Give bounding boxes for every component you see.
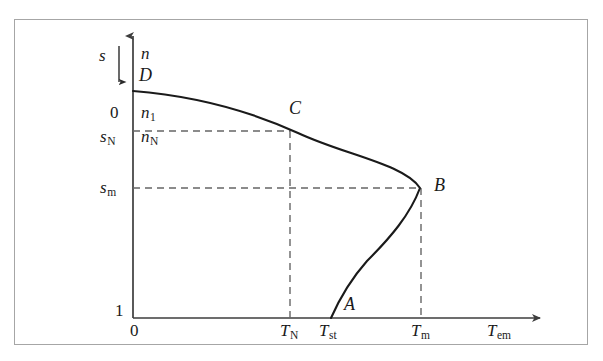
- tick-label-one-left: 1: [115, 302, 124, 319]
- tick-label-Tm: Tm: [411, 322, 429, 339]
- tick-label-nN: nN: [141, 128, 158, 145]
- tick-label-sm-sub: m: [107, 186, 116, 198]
- tick-label-Tm-base: T: [411, 321, 420, 340]
- tick-label-TN: TN: [280, 322, 298, 339]
- point-label-C: C: [289, 99, 301, 117]
- tick-label-sN-sub: N: [107, 135, 115, 147]
- tick-label-sm-base: s: [100, 178, 107, 197]
- tick-label-sN-base: s: [100, 127, 107, 146]
- axis-label-n: n: [141, 45, 150, 62]
- chart-canvas: [0, 0, 603, 361]
- tick-label-n1-base: n: [141, 103, 150, 122]
- axis-label-Tem-sub: em: [497, 329, 511, 341]
- tick-label-Tm-sub: m: [421, 329, 430, 341]
- tick-label-nN-sub: N: [150, 135, 158, 147]
- tick-label-sN: sN: [100, 128, 115, 145]
- torque-slip-curve: [133, 91, 420, 318]
- axis-label-s: s: [99, 47, 106, 64]
- tick-label-TN-base: T: [280, 321, 289, 340]
- tick-label-origin-zero: 0: [130, 322, 139, 339]
- axis-label-Tem: Tem: [487, 322, 511, 339]
- tick-label-nN-base: n: [141, 127, 150, 146]
- tick-label-n1: n1: [141, 104, 155, 121]
- tick-label-sm: sm: [100, 179, 116, 196]
- tick-label-n1-sub: 1: [150, 111, 156, 123]
- tick-label-zero-left: 0: [110, 104, 119, 121]
- figure-container: s n D 0 n1 sN nN sm 1 0 C B A TN Tst Tm …: [0, 0, 603, 361]
- tick-label-TN-sub: N: [290, 329, 298, 341]
- point-label-D: D: [139, 66, 152, 84]
- tick-label-Tst-base: T: [319, 321, 328, 340]
- tick-label-Tst: Tst: [319, 322, 336, 339]
- point-label-A: A: [344, 295, 355, 313]
- axis-label-Tem-base: T: [487, 321, 496, 340]
- point-label-B: B: [434, 176, 445, 194]
- tick-label-Tst-sub: st: [329, 329, 337, 341]
